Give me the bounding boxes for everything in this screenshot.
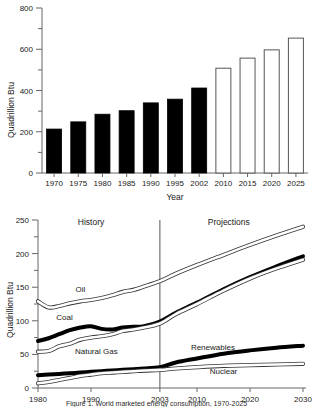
bar-chart-y-axis-title: Quadrillion Btu [6, 82, 16, 138]
line-chart-y-tick-labels: 250 200 150 100 50 0 [16, 216, 30, 393]
bar-2010 [216, 68, 231, 173]
bar-1975 [71, 122, 86, 173]
line-y-tick-50: 50 [20, 350, 29, 359]
bar-1980 [95, 114, 110, 173]
bar-1985 [119, 111, 134, 173]
bar-x-label-1975: 1975 [69, 179, 87, 188]
bar-2020 [264, 50, 279, 173]
bar-chart-bars [47, 38, 304, 173]
series-label-nuclear: Nuclear [210, 367, 238, 376]
bar-x-label-1990: 1990 [142, 179, 160, 188]
bar-y-tick-200: 200 [20, 128, 34, 137]
line-chart-panel: Quadrillion Btu 250 200 15 [0, 205, 313, 411]
bar-2002 [192, 88, 207, 173]
bar-chart-x-tick-labels: 1970197519801985199019952002201020152020… [45, 179, 305, 188]
bar-x-label-1995: 1995 [166, 179, 184, 188]
line-chart-y-ticks [32, 220, 38, 388]
series-label-oil: Oil [76, 285, 86, 294]
line-y-tick-0: 0 [25, 384, 30, 393]
bar-y-tick-800: 800 [20, 4, 34, 13]
bar-x-label-2015: 2015 [239, 179, 257, 188]
series-label-coal: Coal [56, 313, 73, 322]
bar-x-label-2025: 2025 [287, 179, 305, 188]
series-label-natural-gas: Natural Gas [75, 347, 118, 356]
line-chart-x-ticks [38, 388, 303, 392]
bar-1970 [47, 129, 62, 173]
bar-x-label-1980: 1980 [94, 179, 112, 188]
line-chart-series [38, 227, 303, 384]
projections-region-label: Projections [208, 217, 250, 227]
bar-x-label-1970: 1970 [45, 179, 63, 188]
series-fill-natural-gas [38, 260, 303, 352]
bar-chart-svg: Quadrillion Btu 800 600 400 2 [0, 0, 313, 205]
bar-y-tick-400: 400 [20, 87, 34, 96]
bar-chart-y-ticks [36, 8, 42, 173]
bar-y-tick-0: 0 [29, 169, 34, 178]
bar-2025 [288, 38, 303, 173]
series-fill-oil [38, 227, 303, 308]
history-region-label: History [78, 217, 105, 227]
bar-chart-y-tick-labels: 800 600 400 200 0 [20, 4, 34, 178]
bar-1995 [168, 99, 183, 173]
bar-chart-x-axis-title: Year [166, 192, 183, 202]
bar-y-tick-600: 600 [20, 45, 34, 54]
line-y-tick-250: 250 [16, 216, 30, 225]
bar-x-label-2002: 2002 [190, 179, 208, 188]
line-y-tick-100: 100 [16, 317, 30, 326]
energy-consumption-figure: Quadrillion Btu 800 600 400 2 [0, 0, 313, 411]
bar-x-label-2020: 2020 [263, 179, 281, 188]
bar-1990 [143, 103, 158, 173]
series-label-renewables: Renewables [191, 343, 235, 352]
line-chart-svg: Quadrillion Btu 250 200 15 [0, 205, 313, 411]
bar-2015 [240, 58, 255, 173]
series-line-coal [38, 256, 303, 341]
figure-caption: Figure 1. World marketed energy consumpt… [0, 400, 313, 407]
line-chart-y-axis-title: Quadrillion Btu [5, 282, 15, 338]
bar-x-label-2010: 2010 [214, 179, 232, 188]
bar-chart-x-ticks [54, 173, 296, 177]
line-y-tick-200: 200 [16, 250, 30, 259]
bar-chart-panel: Quadrillion Btu 800 600 400 2 [0, 0, 313, 205]
bar-x-label-1985: 1985 [118, 179, 136, 188]
line-y-tick-150: 150 [16, 283, 30, 292]
